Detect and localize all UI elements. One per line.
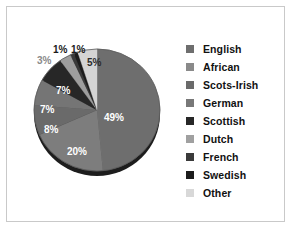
- slice-value-label: 3%: [37, 56, 51, 66]
- pie-slice-english[interactable]: [97, 49, 160, 171]
- legend-swatch-icon: [186, 99, 194, 107]
- legend-swatch-icon: [186, 81, 194, 89]
- slice-value-label: 49%: [104, 113, 124, 123]
- slice-value-label: 8%: [44, 125, 58, 135]
- legend-item-swedish[interactable]: Swedish: [186, 166, 286, 184]
- legend-item-french[interactable]: French: [186, 148, 286, 166]
- legend-swatch-icon: [186, 171, 194, 179]
- legend-swatch-icon: [186, 135, 194, 143]
- legend-item-label: English: [203, 43, 242, 55]
- slice-value-label: 7%: [40, 105, 54, 115]
- slice-value-label: 20%: [67, 147, 87, 157]
- legend-swatch-icon: [186, 117, 194, 125]
- legend-swatch-icon: [186, 189, 194, 197]
- legend-swatch-icon: [186, 153, 194, 161]
- legend-item-label: Scots-Irish: [203, 79, 258, 91]
- legend-item-label: Swedish: [203, 169, 246, 181]
- legend-item-label: German: [203, 97, 243, 109]
- slice-value-label: 1%: [53, 45, 67, 55]
- legend-item-german[interactable]: German: [186, 94, 286, 112]
- legend-item-african[interactable]: African: [186, 58, 286, 76]
- legend-item-scottish[interactable]: Scottish: [186, 112, 286, 130]
- legend-item-label: Scottish: [203, 115, 245, 127]
- chart-legend: EnglishAfricanScots-IrishGermanScottishD…: [186, 40, 286, 202]
- legend-swatch-icon: [186, 63, 194, 71]
- legend-item-label: French: [203, 151, 239, 163]
- legend-item-label: Dutch: [203, 133, 233, 145]
- legend-item-scots-irish[interactable]: Scots-Irish: [186, 76, 286, 94]
- legend-item-dutch[interactable]: Dutch: [186, 130, 286, 148]
- legend-item-label: African: [203, 61, 240, 73]
- slice-value-label: 7%: [56, 86, 70, 96]
- pie-chart-figure: 49%20%8%7%7%3%1%1%5% EnglishAfricanScots…: [0, 0, 293, 230]
- legend-item-english[interactable]: English: [186, 40, 286, 58]
- slice-value-label: 5%: [87, 58, 101, 68]
- slice-value-label: 1%: [71, 45, 85, 55]
- chart-plot-area: 49%20%8%7%7%3%1%1%5% EnglishAfricanScots…: [0, 0, 293, 230]
- legend-item-other[interactable]: Other: [186, 184, 286, 202]
- legend-swatch-icon: [186, 45, 194, 53]
- legend-item-label: Other: [203, 187, 232, 199]
